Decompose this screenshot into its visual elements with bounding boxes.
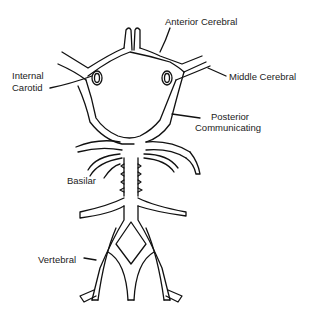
label-internal-carotid-line2: Carotid bbox=[12, 82, 43, 93]
middle-cerebral-artery bbox=[176, 62, 210, 80]
circle-of-willis-diagram bbox=[0, 0, 314, 317]
label-anterior-cerebral: Anterior Cerebral bbox=[165, 16, 237, 27]
basilar-artery bbox=[120, 158, 142, 196]
label-middle-cerebral: Middle Cerebral bbox=[229, 71, 296, 82]
label-leaders bbox=[50, 28, 226, 260]
label-basilar: Basilar bbox=[67, 175, 96, 186]
anterior-cerebral-artery bbox=[58, 28, 202, 80]
label-posterior-communicating-line1: Posterior bbox=[211, 111, 249, 122]
cerebellar-branches bbox=[80, 198, 186, 218]
label-posterior-communicating-line2: Communicating bbox=[195, 122, 261, 133]
label-vertebral: Vertebral bbox=[38, 254, 76, 265]
internal-carotid-artery bbox=[92, 71, 172, 85]
vertebral-artery bbox=[80, 206, 182, 302]
label-internal-carotid-line1: Internal bbox=[12, 70, 44, 81]
